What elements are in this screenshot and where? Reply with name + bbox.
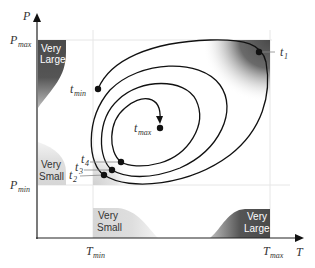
label-tmax: t max <box>134 121 152 137</box>
t-very-small-line2: Small <box>97 222 122 233</box>
svg-text:2: 2 <box>73 175 77 184</box>
svg-text:max: max <box>270 251 284 260</box>
point-t4 <box>118 159 124 165</box>
svg-text:4: 4 <box>85 159 89 168</box>
p-very-small-line2: Small <box>39 171 64 182</box>
trajectory-diagram: Very Large Very Small Very Small Very La… <box>0 0 315 268</box>
svg-text:min: min <box>93 251 105 260</box>
y-tick-pmin: P min <box>9 178 30 194</box>
svg-text:max: max <box>138 128 152 137</box>
svg-text:P: P <box>9 33 18 47</box>
point-tmin <box>95 86 101 92</box>
trajectory-arrow-icon <box>156 116 163 124</box>
label-tmin: t min <box>70 82 86 98</box>
label-t4: t 4 <box>81 152 89 168</box>
y-tick-pmax: P max <box>9 33 32 49</box>
svg-text:max: max <box>18 40 32 49</box>
p-very-large-line1: Very <box>41 43 61 54</box>
svg-text:min: min <box>74 89 86 98</box>
y-axis-label: P <box>22 9 31 23</box>
point-t3 <box>109 167 115 173</box>
x-axis-arrow-icon <box>295 234 304 242</box>
t-very-large-line1: Very <box>247 211 267 222</box>
p-very-small-line1: Very <box>41 159 61 170</box>
svg-text:1: 1 <box>284 52 288 61</box>
point-t1 <box>256 49 262 55</box>
t-very-large-line2: Large <box>244 223 270 234</box>
point-t2 <box>101 172 107 178</box>
svg-text:P: P <box>9 178 18 192</box>
x-tick-tmin: T min <box>86 244 105 260</box>
t-very-small-line1: Very <box>98 210 118 221</box>
label-t1: t 1 <box>280 45 288 61</box>
x-axis-label: T <box>296 245 304 259</box>
svg-text:3: 3 <box>78 167 83 176</box>
svg-text:min: min <box>18 185 30 194</box>
max-region-shading <box>205 40 270 100</box>
x-tick-tmax: T max <box>263 244 284 260</box>
y-axis-arrow-icon <box>33 13 41 22</box>
point-tmax <box>157 125 163 131</box>
p-very-large-line2: Large <box>40 54 66 65</box>
